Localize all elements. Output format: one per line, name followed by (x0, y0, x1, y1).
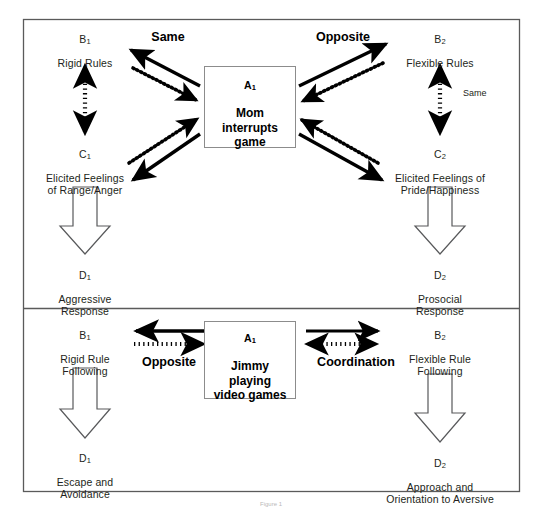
node-d1-bottom: D1 Escape and Avoidance (25, 441, 145, 500)
block-arrow-c1-to-d1 (60, 187, 110, 254)
relation-label-same-vertical-right: Same (463, 88, 487, 98)
node-c2-top-text: Elicited Feelings of Pride/Happiness (395, 172, 485, 196)
node-a1-bottom-code: A1 (214, 332, 287, 345)
node-b2-bottom-text: Flexible Rule Following (409, 353, 471, 377)
node-d2-bottom-text: Approach and Orientation to Aversive (386, 481, 494, 505)
node-d2-top-text: Prosocial Response (416, 293, 464, 317)
node-d2-bottom: D2 Approach and Orientation to Aversive (352, 446, 528, 505)
node-a1-bottom[interactable]: A1 Jimmy playing video games (204, 321, 296, 399)
node-b1-bottom-code: B1 (25, 330, 145, 342)
node-c2-top-code: C2 (365, 149, 515, 161)
figure-caption: Figure 1 (231, 501, 311, 507)
node-a1-bottom-text: Jimmy playing video games (214, 359, 287, 402)
relation-label-same-top-left: Same (120, 30, 216, 44)
relation-label-opposite-top-right: Opposite (288, 30, 398, 44)
node-b2-bottom-code: B2 (378, 330, 502, 342)
arrow-b1-to-a1-dotted (133, 68, 196, 100)
relation-label-opposite-bottom-left: Opposite (123, 355, 215, 369)
block-arrow-c2-to-d2 (415, 187, 465, 254)
figure-canvas: A1 Mom interrupts game B1 Rigid Rules C1… (0, 0, 541, 514)
node-c2-top: C2 Elicited Feelings of Pride/Happiness (365, 137, 515, 196)
node-b1-bottom-text: Rigid Rule Following (60, 353, 109, 377)
node-c1-top-text: Elicited Feelings of Range/Anger (46, 172, 124, 196)
node-c1-top: C1 Elicited Feelings of Range/Anger (13, 137, 157, 196)
arrow-a1-to-b2-solid (299, 44, 386, 86)
node-d1-top-text: Aggressive Response (59, 293, 112, 317)
node-d2-top: D2 Prosocial Response (380, 258, 500, 317)
node-b1-top-text: Rigid Rules (58, 57, 113, 69)
node-d2-bottom-code: D2 (352, 458, 528, 470)
node-a1-top[interactable]: A1 Mom interrupts game (204, 66, 296, 148)
node-d1-bottom-code: D1 (25, 453, 145, 465)
relation-label-coordination-bottom-right: Coordination (297, 355, 415, 369)
node-a1-top-text: Mom interrupts game (222, 106, 278, 149)
block-arrow-b2-to-d2 (415, 374, 465, 442)
node-d2-top-code: D2 (380, 270, 500, 282)
node-a1-top-code: A1 (222, 79, 278, 92)
node-c1-top-code: C1 (13, 149, 157, 161)
node-b2-top-text: Flexible Rules (406, 57, 473, 69)
block-arrow-b1-to-d1 (60, 368, 110, 438)
node-d1-top-code: D1 (25, 270, 145, 282)
node-d1-bottom-text: Escape and Avoidance (57, 476, 113, 500)
node-d1-top: D1 Aggressive Response (25, 258, 145, 317)
arrow-b2-to-a1-dotted (303, 63, 383, 101)
